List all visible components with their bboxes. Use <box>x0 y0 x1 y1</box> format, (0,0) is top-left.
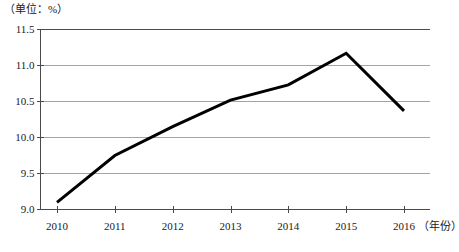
y-tick-label: 9.0 <box>1 204 35 215</box>
x-tick-label: 2012 <box>162 221 184 232</box>
x-axis-title: （年份） <box>418 221 459 232</box>
x-tick-label: 2014 <box>277 221 299 232</box>
y-tick-label: 10.5 <box>1 96 35 107</box>
y-tick-label: 11.0 <box>1 60 35 71</box>
x-tick-label: 2016 <box>393 221 415 232</box>
y-tick-label: 10.0 <box>1 132 35 143</box>
y-tick-label: 9.5 <box>1 168 35 179</box>
data-line <box>57 53 404 202</box>
axes <box>41 30 431 210</box>
x-tick-label: 2011 <box>104 221 126 232</box>
x-tick-label: 2015 <box>335 221 357 232</box>
gridlines <box>41 30 431 174</box>
x-tick-label: 2013 <box>220 221 242 232</box>
y-tick-label: 11.5 <box>1 24 35 35</box>
x-tick-label: 2010 <box>46 221 68 232</box>
